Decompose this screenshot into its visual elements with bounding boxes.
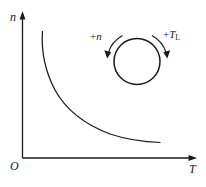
torque-axis-label: T (189, 163, 196, 175)
speed-direction-label: +n (90, 31, 102, 42)
speed-torque-diagram: n O T +n +TL (0, 0, 206, 187)
load-torque-arrowhead (163, 50, 170, 58)
load-torque-label: +TL (163, 29, 180, 42)
speed-direction-arrowhead (104, 50, 111, 58)
rotor-circle (114, 39, 160, 85)
load-torque-subscript: L (175, 33, 180, 42)
speed-axis-label: n (10, 11, 16, 23)
torque-axis-arrowhead (189, 155, 198, 161)
speed-direction-symbol: n (96, 30, 102, 42)
speed-axis-arrowhead (20, 11, 26, 20)
origin-label: O (10, 160, 19, 172)
characteristic-curve (42, 31, 160, 143)
speed-direction-arc (109, 36, 123, 53)
